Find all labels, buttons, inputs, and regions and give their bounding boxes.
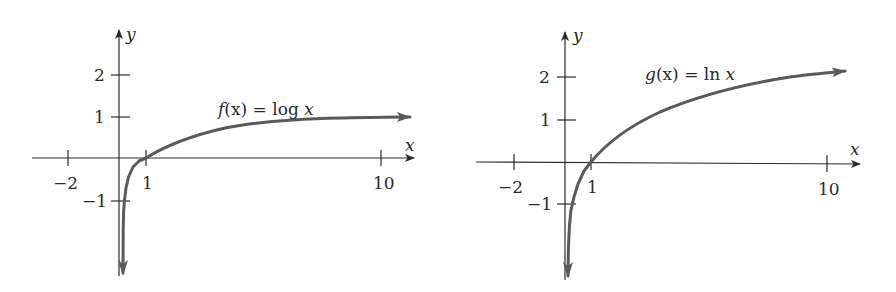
y-tick-label-2: 2 (94, 65, 105, 85)
y-tick-label-1: 1 (540, 110, 551, 130)
function-label-log: f(x) = log x (216, 99, 314, 119)
func-var: x (726, 64, 736, 84)
x-tick-label-neg2: −2 (498, 177, 523, 197)
func-eq: = log (247, 99, 304, 119)
y-tick-label-2: 2 (539, 67, 550, 87)
x-tick-label-10: 10 (818, 179, 840, 199)
y-tick-label-neg1: −1 (527, 194, 552, 214)
plot-log: y x −2 1 10 2 1 −1 f(x) = log x (32, 24, 415, 276)
x-tick-label-10: 10 (373, 173, 395, 193)
curve-ln (568, 71, 845, 276)
func-eq: = ln (679, 64, 726, 84)
func-name: g (645, 64, 656, 84)
func-arg: (x) (656, 64, 679, 84)
plot-ln: y x −2 1 10 2 1 −1 g(x) = ln x (476, 25, 860, 280)
x-axis (476, 162, 860, 164)
func-var: x (304, 99, 314, 119)
y-axis-label: y (572, 25, 583, 45)
y-tick-label-neg1: −1 (82, 191, 107, 211)
x-tick-label-1: 1 (587, 177, 598, 197)
x-axis-label: x (405, 135, 415, 155)
y-axis-label: y (125, 24, 136, 44)
function-label-ln: g(x) = ln x (645, 64, 736, 84)
x-tick-label-1: 1 (142, 173, 153, 193)
figure: y x −2 1 10 2 1 −1 f(x) = log x y x −2 1… (0, 0, 896, 292)
curve-log (123, 117, 410, 273)
x-axis-label: x (850, 139, 860, 159)
func-arg: (x) (224, 99, 247, 119)
y-tick-label-1: 1 (94, 107, 105, 127)
x-tick-label-neg2: −2 (53, 173, 78, 193)
